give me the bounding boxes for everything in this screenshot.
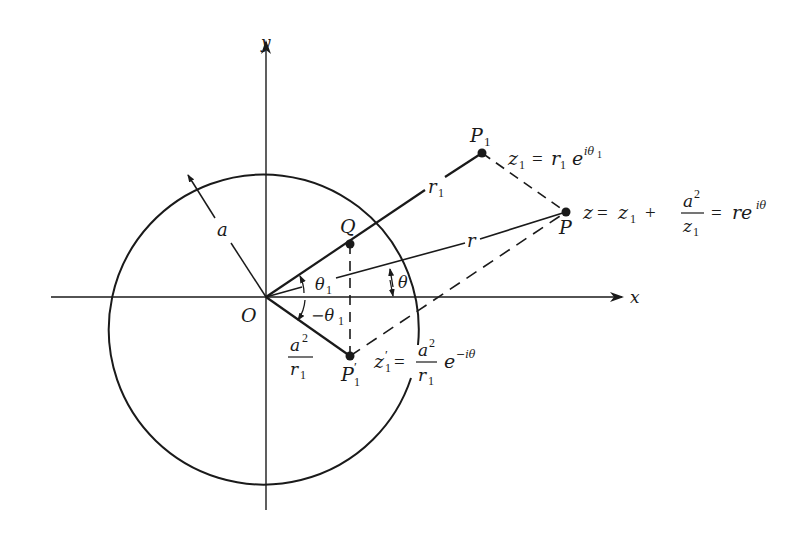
svg-text:2: 2 <box>429 336 435 350</box>
svg-text:z: z <box>582 201 594 223</box>
point-P1 <box>478 149 487 158</box>
svg-text:1: 1 <box>385 361 391 375</box>
segment-r1-label: r 1 <box>428 176 444 200</box>
svg-text:′: ′ <box>354 359 357 374</box>
point-Q-label: Q <box>340 215 356 237</box>
point-P-label: P <box>558 216 573 238</box>
segment-O-P1-upper <box>445 153 482 177</box>
svg-text:e: e <box>444 350 455 372</box>
point-P1-prime-label: P ′ 1 <box>340 359 360 389</box>
svg-text:=: = <box>532 148 543 169</box>
svg-text:P: P <box>469 124 484 146</box>
svg-text:iθ: iθ <box>756 199 767 212</box>
x-axis-label: x <box>630 287 640 307</box>
svg-text:r: r <box>428 176 438 197</box>
svg-text:r: r <box>418 365 427 385</box>
equation-z: z = z 1 + a 2 z 1 = re iθ <box>582 187 767 239</box>
radius-label-a: a <box>217 219 228 240</box>
angle-theta1-label: θ 1 <box>315 275 332 297</box>
svg-text:z: z <box>507 147 519 169</box>
svg-text:1: 1 <box>354 375 360 389</box>
svg-text:1: 1 <box>428 374 434 388</box>
svg-text:iθ: iθ <box>584 145 595 158</box>
segment-r-label: r <box>467 230 477 251</box>
dashed-P1prime-P <box>350 212 566 356</box>
svg-text:θ: θ <box>315 275 325 294</box>
svg-text:re: re <box>732 201 752 223</box>
fraction-a2-over-r1: a 2 r 1 <box>288 331 313 382</box>
svg-text:2: 2 <box>694 187 700 201</box>
equation-z1-prime: z ′ 1 = a 2 r 1 e −iθ <box>373 336 476 388</box>
svg-text:e: e <box>572 147 583 169</box>
theta1-pointer <box>266 287 302 297</box>
svg-text:1: 1 <box>630 212 636 226</box>
y-axis-label: y <box>260 32 271 52</box>
svg-text:r: r <box>290 359 299 379</box>
angle-neg-theta1-label: −θ 1 <box>311 306 344 328</box>
svg-text:z: z <box>682 216 693 236</box>
point-P1-label: P 1 <box>469 124 491 149</box>
svg-text:a: a <box>418 340 428 360</box>
radius-a-line-upper <box>188 175 215 218</box>
svg-text:=: = <box>711 202 722 223</box>
svg-text:=: = <box>597 202 608 223</box>
segment-r-upper <box>480 212 566 239</box>
svg-text:P: P <box>340 363 355 385</box>
circle-radius-a <box>109 175 419 485</box>
svg-text:−θ: −θ <box>311 306 334 325</box>
svg-text:a: a <box>683 191 693 211</box>
radius-a-line-lower <box>231 243 266 297</box>
svg-text:+: + <box>645 202 656 223</box>
svg-text:1: 1 <box>597 149 602 160</box>
svg-text:a: a <box>290 335 300 355</box>
equation-z1: z 1 = r 1 e iθ 1 <box>507 145 602 172</box>
svg-text:=: = <box>394 351 405 372</box>
svg-text:1: 1 <box>560 158 566 172</box>
svg-text:z: z <box>617 201 629 223</box>
svg-text:−iθ: −iθ <box>456 348 476 361</box>
svg-text:1: 1 <box>300 368 306 382</box>
theta1-arc <box>300 276 304 293</box>
svg-text:1: 1 <box>338 314 344 328</box>
point-Q <box>346 240 355 249</box>
neg-theta1-arc <box>298 300 305 320</box>
svg-text:z: z <box>373 350 385 372</box>
svg-text:1: 1 <box>693 225 699 239</box>
angle-theta-label: θ <box>398 273 408 292</box>
svg-text:1: 1 <box>484 134 491 149</box>
origin-label: O <box>241 304 257 326</box>
svg-text:2: 2 <box>302 331 308 345</box>
svg-text:′: ′ <box>385 347 388 362</box>
diagram-canvas: y x O a Q P 1 P P ′ 1 r 1 r θ 1 −θ 1 θ a… <box>0 0 810 533</box>
svg-text:1: 1 <box>519 158 525 172</box>
svg-text:1: 1 <box>326 283 332 297</box>
svg-text:1: 1 <box>438 186 444 200</box>
